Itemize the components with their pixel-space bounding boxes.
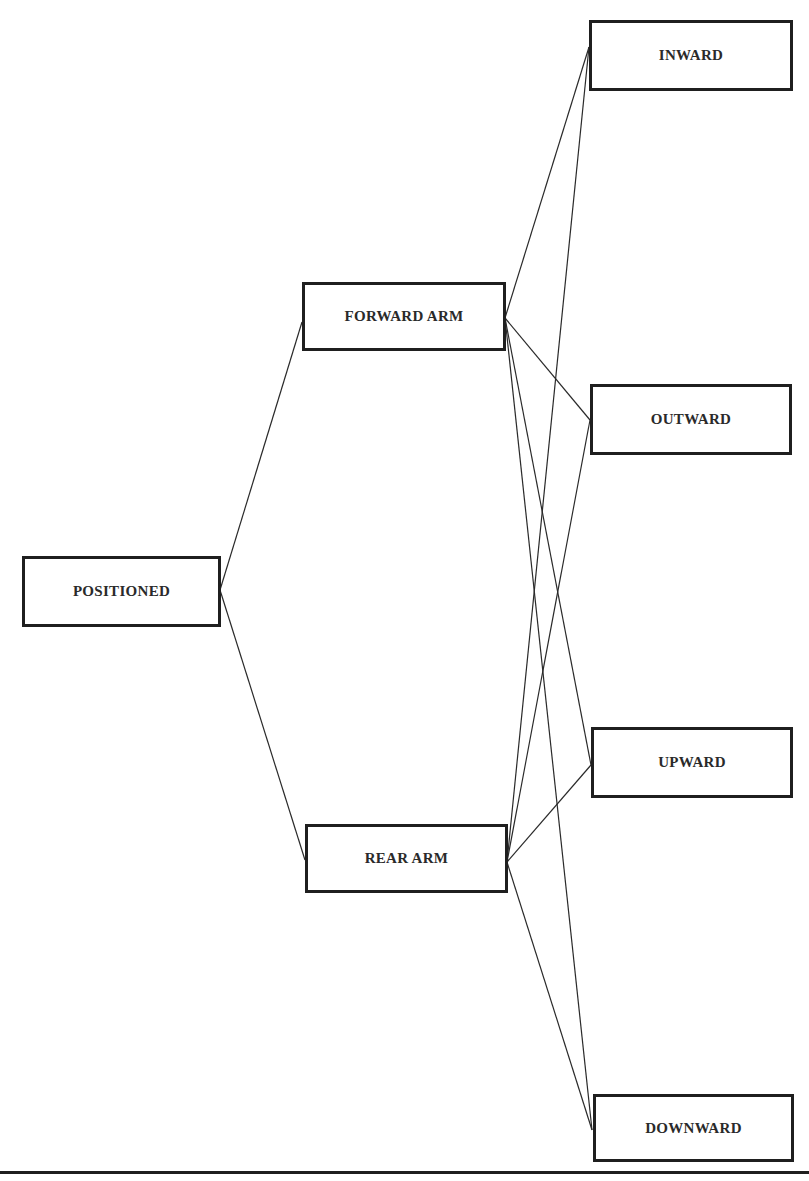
edge-positioned-to-rear_arm [220, 590, 305, 860]
node-positioned: POSITIONED [22, 556, 221, 627]
node-label-inward: INWARD [659, 47, 723, 64]
node-label-upward: UPWARD [658, 754, 726, 771]
edge-rear-arm-to-outward [507, 420, 590, 862]
node-outward: OUTWARD [590, 384, 792, 455]
node-label-forward-arm: FORWARD ARM [344, 308, 463, 325]
bottom-rule-divider [0, 1171, 809, 1174]
node-forward-arm: FORWARD ARM [302, 282, 506, 351]
edge-positioned-to-forward_arm [220, 322, 302, 590]
node-label-downward: DOWNWARD [645, 1120, 742, 1137]
node-inward: INWARD [589, 20, 793, 91]
node-label-rear-arm: REAR ARM [365, 850, 449, 867]
edge-forward-arm-to-outward [505, 318, 590, 420]
node-upward: UPWARD [591, 727, 793, 798]
node-label-outward: OUTWARD [651, 411, 731, 428]
edge-forward-arm-to-downward [505, 318, 592, 1130]
edge-rear-arm-to-upward [507, 765, 591, 862]
edge-layer [220, 47, 592, 1130]
edge-forward-arm-to-upward [505, 318, 591, 765]
node-rear-arm: REAR ARM [305, 824, 508, 893]
node-label-positioned: POSITIONED [73, 583, 170, 600]
edge-rear-arm-to-downward [507, 862, 592, 1130]
node-downward: DOWNWARD [593, 1094, 794, 1162]
edge-forward-arm-to-inward [505, 47, 589, 318]
